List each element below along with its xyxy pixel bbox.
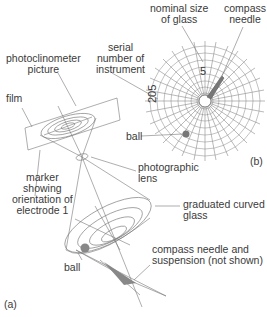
dial-number-left: 205 [147, 85, 158, 103]
ball-b-shape [183, 131, 190, 138]
label-line: glass [183, 210, 265, 221]
ball-a-shape [81, 244, 90, 253]
label-film: film [6, 93, 22, 104]
label-line: suspension (not shown) [152, 255, 263, 266]
compass-needle-a-shape [104, 262, 136, 285]
label-line: lens [138, 173, 199, 184]
dial-number-top: 5 [200, 66, 206, 77]
label-ball-a: ball [64, 262, 80, 273]
label-marker: marker showing orientation of electrode … [12, 172, 73, 216]
label-line: electrode 1 [12, 205, 73, 216]
panel-a-label: (a) [4, 299, 17, 310]
label-photographic-lens: photographic lens [138, 162, 199, 184]
panel-b-label: (b) [250, 156, 263, 167]
label-ball-b: ball [126, 131, 142, 142]
label-nominal-size: nominal size of glass [150, 3, 208, 25]
label-line: needle [224, 14, 266, 25]
label-photoclinometer: photoclinometer picture [6, 53, 81, 75]
label-line: instrument [96, 64, 145, 75]
label-compass-suspension: compass needle and suspension (not shown… [152, 244, 263, 266]
label-line: picture [6, 64, 81, 75]
label-graduated-glass: graduated curved glass [183, 199, 265, 221]
label-line: of glass [150, 14, 208, 25]
label-compass-needle: compass needle [224, 3, 266, 25]
graduated-dial [145, 41, 265, 161]
label-serial-number: serial number of instrument [96, 42, 145, 75]
